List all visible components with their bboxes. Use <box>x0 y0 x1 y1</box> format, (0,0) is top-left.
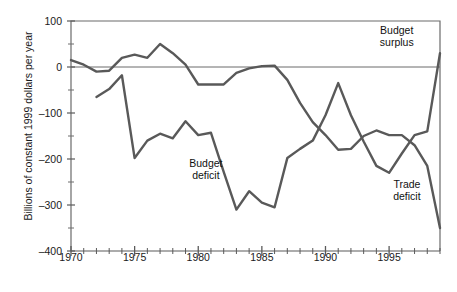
trade-deficit-label: Tradedeficit <box>393 178 420 202</box>
series-line-0 <box>71 44 440 228</box>
annotation-line-2: surplus <box>380 36 414 48</box>
data-lines-group <box>71 44 440 228</box>
annotation-line-1: Budget <box>380 24 414 36</box>
axes-group <box>67 21 440 256</box>
annotation-line-1: Budget <box>189 157 222 169</box>
budget-deficit-label: Budgetdeficit <box>189 157 222 181</box>
annotation-line-2: deficit <box>189 169 222 181</box>
annotation-line-2: deficit <box>393 190 420 202</box>
budget-surplus-label: Budgetsurplus <box>380 24 414 48</box>
chart-figure: Billions of constant 1999 dollars per ye… <box>0 0 457 292</box>
annotation-line-1: Trade <box>393 178 420 190</box>
series-line-1 <box>96 53 440 209</box>
